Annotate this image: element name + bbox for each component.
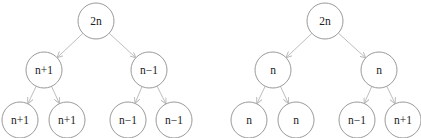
left-tree-node-L3: n+1: [2, 102, 38, 138]
right-tree-node-R6: n+1: [385, 102, 421, 138]
right-tree-node-R3: n: [231, 102, 267, 138]
node-label: 2n: [319, 15, 331, 27]
edge-L2-L6: [157, 86, 165, 103]
node-label: 2n: [90, 15, 102, 27]
tree-diagram-canvas: 2nn+1n−1n+1n+1n−1n−12nnnnnn−1n+1: [0, 0, 421, 138]
right-tree-node-R0: 2n: [307, 3, 343, 39]
left-tree-node-L6: n−1: [156, 102, 192, 138]
edge-L1-L4: [52, 86, 60, 102]
edge-R2-R5: [365, 86, 372, 102]
edge-R1-R4: [281, 86, 289, 102]
edge-R0-R1: [287, 33, 312, 57]
left-tree-node-L4: n+1: [49, 102, 85, 138]
left-tree-node-L2: n−1: [131, 52, 167, 88]
left-tree-node-L1: n+1: [26, 52, 62, 88]
edge-L2-L5: [135, 87, 142, 103]
node-label: n−1: [140, 64, 158, 76]
node-label: n−1: [348, 114, 366, 126]
node-label: n+1: [35, 64, 53, 76]
edge-L0-L1: [58, 33, 83, 57]
node-label: n: [246, 114, 252, 126]
node-label: n: [270, 64, 276, 76]
node-label: n: [376, 64, 382, 76]
node-label: n: [293, 114, 299, 126]
right-tree-node-R1: n: [255, 52, 291, 88]
edge-L0-L2: [109, 33, 135, 57]
right-tree-node-R2: n: [361, 52, 397, 88]
left-tree-node-L0: 2n: [78, 3, 114, 39]
right-tree-node-R4: n: [278, 102, 314, 138]
edge-L1-L3: [28, 86, 36, 103]
left-tree-node-L5: n−1: [110, 102, 146, 138]
nodes-layer: 2nn+1n−1n+1n+1n−1n−12nnnnnn−1n+1: [2, 3, 421, 138]
edges-layer: [28, 33, 395, 103]
edge-R2-R6: [387, 86, 395, 103]
right-tree-node-R5: n−1: [339, 102, 375, 138]
node-label: n+1: [11, 114, 29, 126]
edge-R0-R2: [338, 33, 365, 57]
node-label: n+1: [394, 114, 412, 126]
node-label: n+1: [58, 114, 76, 126]
node-label: n−1: [119, 114, 137, 126]
node-label: n−1: [165, 114, 183, 126]
edge-R1-R3: [257, 86, 265, 103]
